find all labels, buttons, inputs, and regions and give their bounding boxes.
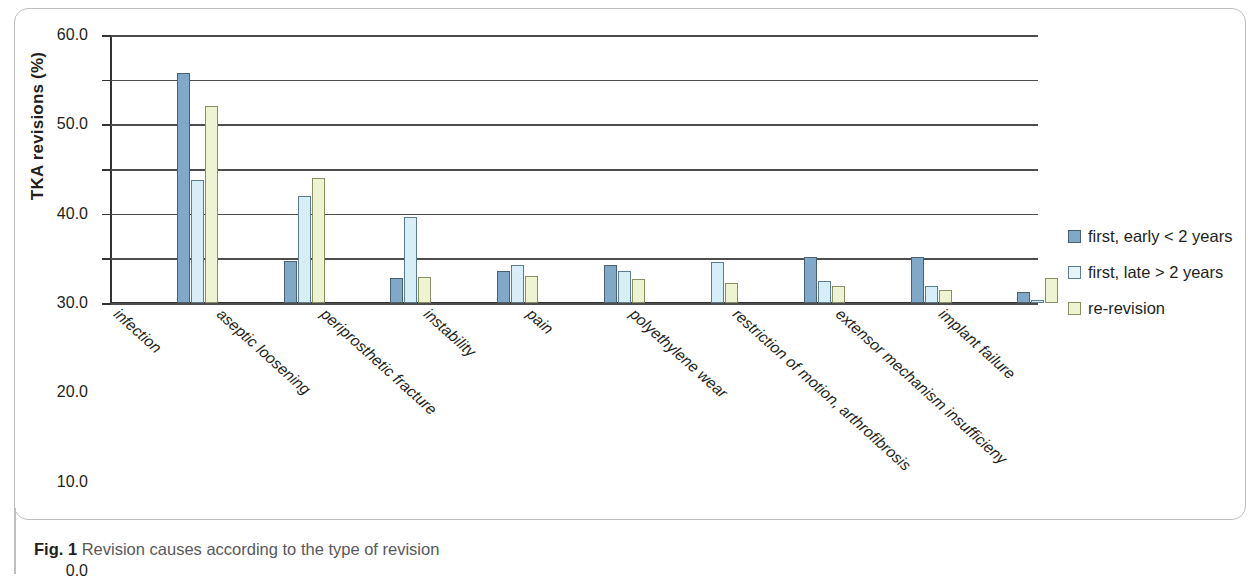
y-axis-tick-label: 40.0 [57,205,88,223]
bar [804,257,817,303]
bar-group [846,35,953,303]
figure-caption-text: Revision causes according to the type of… [77,540,439,558]
bar [298,196,311,303]
bar [525,276,538,303]
bar-group [432,35,539,303]
bar-group [326,35,433,303]
bar [1017,292,1030,303]
bar-chart: TKA revisions (%) 60.050.040.030.020.010… [0,0,1251,520]
x-axis-label: aseptic loosening [213,305,314,399]
bar [604,265,617,303]
figure-caption-label: Fig. 1 [34,540,77,558]
legend-item-label: first, early < 2 years [1088,227,1232,246]
bar [925,286,938,303]
y-axis-tick-label: 10.0 [57,473,88,491]
bar [818,281,831,303]
bar [191,180,204,303]
chart-legend: first, early < 2 yearsfirst, late > 2 ye… [1068,228,1248,336]
bar [711,262,724,303]
bar [725,283,738,303]
bar [939,290,952,303]
bar [911,257,924,303]
bar-group [219,35,326,303]
bar-group [646,35,739,303]
y-axis-tick-label: 50.0 [57,115,88,133]
bar [1045,278,1058,303]
y-axis-tick: 50.0 [102,80,111,82]
x-axis-label: pain [523,305,557,338]
figure-panel: TKA revisions (%) 60.050.040.030.020.010… [0,0,1251,579]
x-axis-label: implant failure [935,305,1019,383]
bar [418,277,431,303]
bar [632,279,645,303]
y-axis-tick-label: 0.0 [66,562,88,579]
y-axis-tick: 20.0 [102,214,111,216]
bar [205,106,218,303]
bar [404,217,417,303]
legend-item[interactable]: first, early < 2 years [1068,228,1248,244]
bar [177,73,190,303]
x-axis-label: periprosthetic fracture [317,305,440,419]
bar-group [739,35,846,303]
bar-group [112,35,219,303]
y-axis-tick-label: 20.0 [57,383,88,401]
bar [511,265,524,303]
bar-group [539,35,646,303]
y-axis-title: TKA revisions (%) [28,16,48,236]
series-1-swatch [1068,266,1081,279]
figure-caption: Fig. 1 Revision causes according to the … [34,540,439,559]
bar [390,278,403,303]
y-axis-tick: 30.0 [102,169,111,171]
y-axis-tick: 10.0 [102,258,111,260]
legend-item[interactable]: first, late > 2 years [1068,264,1248,280]
bar [832,286,845,303]
bar [618,271,631,303]
bar [312,178,325,304]
x-axis-label: extensor mechanism insufficieny [832,305,1011,468]
x-axis-label: polyethylene wear [626,305,731,402]
series-2-swatch [1068,302,1081,315]
bar-groups [112,35,1038,303]
bar-group [953,35,1060,303]
y-axis-tick: 40.0 [102,124,111,126]
x-axis-labels: infectionaseptic looseningperiprosthetic… [110,305,1038,520]
bar [1031,300,1044,303]
series-0-swatch [1068,230,1081,243]
y-axis-tick: 60.0 [102,35,111,37]
bar [284,261,297,303]
x-axis-label: restriction of motion, arthrofibrosis [729,305,915,475]
legend-item-label: re-revision [1088,299,1165,318]
plot-area: 60.050.040.030.020.010.00.0 [110,35,1038,303]
legend-item-label: first, late > 2 years [1088,263,1223,282]
y-axis-tick-label: 60.0 [57,26,88,44]
x-axis-label: instability [420,305,479,361]
y-axis-tick-label: 30.0 [57,294,88,312]
legend-item[interactable]: re-revision [1068,300,1248,316]
x-axis-label: infection [110,305,165,357]
bar [497,271,510,303]
